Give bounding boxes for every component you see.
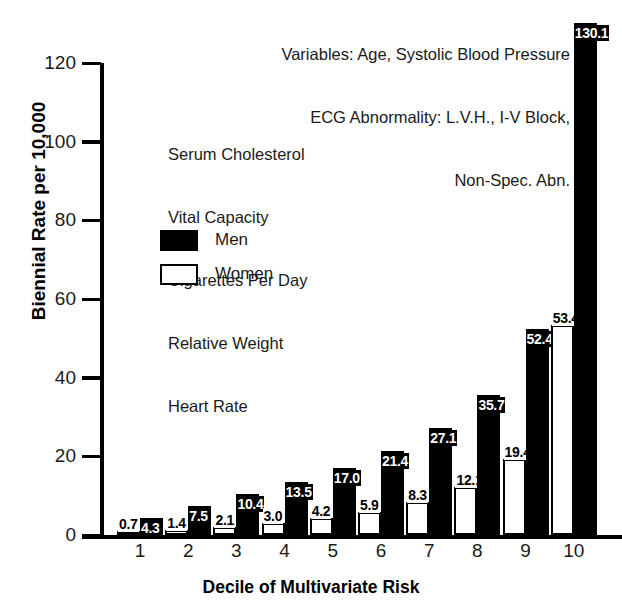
bar-women-decile-7: 8.3 bbox=[406, 502, 429, 535]
chart-figure: Variables: Age, Systolic Blood Pressure … bbox=[0, 0, 622, 602]
y-tick-80 bbox=[82, 219, 101, 223]
bar-value-men-decile-2: 7.5 bbox=[188, 508, 209, 524]
x-tick-label-4: 4 bbox=[265, 540, 305, 562]
x-tick-label-10: 10 bbox=[554, 540, 594, 562]
y-tick-0 bbox=[82, 534, 101, 538]
y-tick-label-0: 0 bbox=[0, 524, 76, 546]
y-tick-label-60: 60 bbox=[0, 288, 76, 310]
x-tick-label-6: 6 bbox=[361, 540, 401, 562]
bar-value-women-decile-5: 4.2 bbox=[311, 503, 332, 519]
bar-value-men-decile-3: 10.4 bbox=[236, 496, 264, 512]
bar-men-decile-3: 10.4 bbox=[236, 494, 259, 535]
bar-men-decile-7: 27.1 bbox=[429, 428, 452, 535]
y-tick-60 bbox=[82, 298, 101, 302]
bar-value-women-decile-1: 0.7 bbox=[118, 516, 139, 532]
y-tick-label-100: 100 bbox=[0, 131, 76, 153]
bar-women-decile-1: 0.7 bbox=[117, 531, 140, 535]
bar-value-men-decile-5: 17.0 bbox=[333, 470, 361, 486]
bar-men-decile-6: 21.4 bbox=[381, 451, 404, 535]
bar-value-women-decile-7: 8.3 bbox=[407, 487, 428, 503]
plot-area: 0.74.31.47.52.110.43.013.54.217.05.921.4… bbox=[100, 63, 615, 535]
bar-men-decile-4: 13.5 bbox=[285, 482, 308, 535]
y-tick-label-80: 80 bbox=[0, 209, 76, 231]
x-tick-label-5: 5 bbox=[313, 540, 353, 562]
bar-women-decile-2: 1.4 bbox=[165, 530, 188, 536]
bar-value-men-decile-8: 35.7 bbox=[477, 397, 505, 413]
bar-men-decile-1: 4.3 bbox=[140, 518, 163, 535]
bar-men-decile-2: 7.5 bbox=[188, 506, 211, 536]
annotation-header-line-1: Variables: Age, Systolic Blood Pressure bbox=[150, 44, 570, 65]
x-tick-label-3: 3 bbox=[216, 540, 256, 562]
bar-men-decile-5: 17.0 bbox=[333, 468, 356, 535]
x-axis-line bbox=[82, 535, 622, 539]
x-tick-label-7: 7 bbox=[409, 540, 449, 562]
y-tick-label-40: 40 bbox=[0, 367, 76, 389]
x-tick-label-9: 9 bbox=[506, 540, 546, 562]
bar-men-decile-8: 35.7 bbox=[477, 395, 500, 535]
y-tick-label-120: 120 bbox=[0, 52, 76, 74]
bar-value-men-decile-7: 27.1 bbox=[429, 430, 457, 446]
y-tick-label-20: 20 bbox=[0, 445, 76, 467]
y-tick-100 bbox=[82, 140, 101, 144]
bar-value-women-decile-4: 3.0 bbox=[263, 508, 284, 524]
bar-women-decile-4: 3.0 bbox=[262, 523, 285, 535]
x-axis-label: Decile of Multivariate Risk bbox=[0, 577, 622, 598]
bar-women-decile-6: 5.9 bbox=[358, 512, 381, 535]
x-tick-label-8: 8 bbox=[457, 540, 497, 562]
bar-women-decile-3: 2.1 bbox=[213, 527, 236, 535]
y-tick-120 bbox=[82, 62, 101, 66]
bar-value-men-decile-1: 4.3 bbox=[140, 520, 161, 536]
bar-value-women-decile-3: 2.1 bbox=[214, 512, 235, 528]
bar-value-men-decile-10: 130.1 bbox=[574, 25, 610, 41]
bar-women-decile-8: 12.1 bbox=[454, 487, 477, 535]
bar-value-men-decile-9: 52.4 bbox=[526, 331, 554, 347]
y-tick-40 bbox=[82, 376, 101, 380]
x-tick-label-2: 2 bbox=[168, 540, 208, 562]
bar-women-decile-9: 19.4 bbox=[503, 459, 526, 535]
bar-women-decile-10: 53.4 bbox=[551, 325, 574, 535]
bar-men-decile-10: 130.1 bbox=[574, 23, 597, 535]
y-tick-20 bbox=[82, 455, 101, 459]
bar-value-women-decile-2: 1.4 bbox=[166, 515, 187, 531]
bar-men-decile-9: 52.4 bbox=[526, 329, 549, 535]
bar-value-men-decile-4: 13.5 bbox=[285, 484, 313, 500]
bar-value-women-decile-6: 5.9 bbox=[359, 497, 380, 513]
bar-value-men-decile-6: 21.4 bbox=[381, 453, 409, 469]
bar-women-decile-5: 4.2 bbox=[310, 518, 333, 535]
x-tick-label-1: 1 bbox=[120, 540, 160, 562]
